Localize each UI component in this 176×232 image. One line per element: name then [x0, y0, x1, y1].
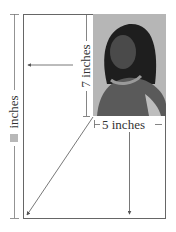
photo-height-label: 7 inches: [79, 41, 93, 91]
photo-width-label: 5 inches: [101, 118, 146, 131]
unknown-height-label: inches: [7, 90, 21, 134]
portrait-photo: [93, 14, 166, 116]
diagonal-arrow: [27, 117, 93, 215]
unknown-value-box: [10, 134, 18, 142]
